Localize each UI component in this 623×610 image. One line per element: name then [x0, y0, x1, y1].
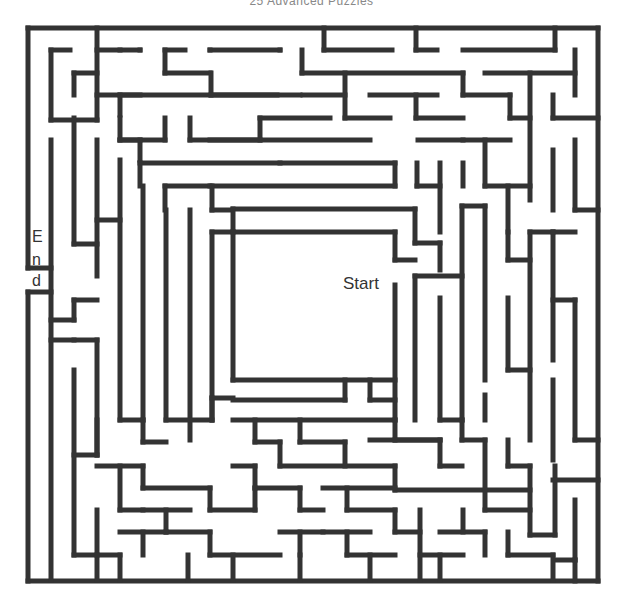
maze-walls	[28, 28, 598, 581]
maze-board	[0, 0, 623, 610]
end-label-e: E	[32, 228, 43, 246]
start-label: Start	[343, 274, 379, 294]
end-label-n: n	[32, 251, 41, 269]
end-label-d: d	[32, 272, 41, 290]
